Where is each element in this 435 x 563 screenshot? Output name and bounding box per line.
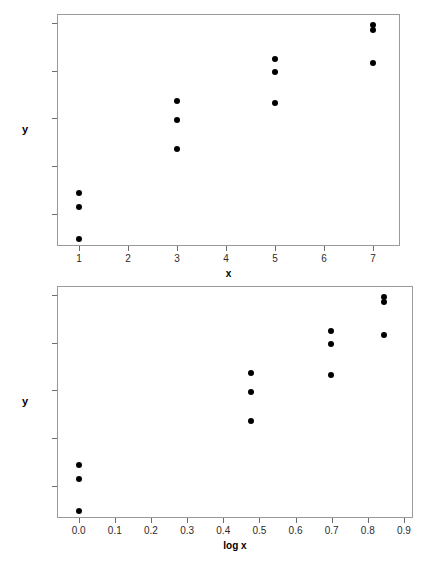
y-tick-mark: [52, 295, 57, 296]
x-tick-mark: [259, 518, 260, 523]
data-point: [370, 60, 376, 66]
x-tick-label: 1: [76, 253, 82, 264]
x-tick-mark: [151, 518, 152, 523]
x-tick-label: 0.9: [397, 525, 411, 536]
x-tick-label: 0.3: [180, 525, 194, 536]
x-tick-mark: [79, 246, 80, 251]
plot-area-bottom: [57, 286, 413, 518]
x-tick-label: 4: [223, 253, 229, 264]
x-tick-mark: [324, 246, 325, 251]
x-tick-label: 0.1: [108, 525, 122, 536]
x-tick-label: 0.8: [361, 525, 375, 536]
y-tick-mark: [52, 486, 57, 487]
x-tick-mark: [115, 518, 116, 523]
x-tick-mark: [187, 518, 188, 523]
y-tick-mark: [52, 438, 57, 439]
x-tick-mark: [404, 518, 405, 523]
x-tick-mark: [368, 518, 369, 523]
data-point: [76, 508, 82, 514]
y-tick-mark: [52, 23, 57, 24]
x-tick-label: 0.0: [72, 525, 86, 536]
y-tick-mark: [52, 214, 57, 215]
y-axis-title-bottom: y: [22, 395, 28, 407]
x-tick-mark: [275, 246, 276, 251]
x-tick-mark: [296, 518, 297, 523]
x-tick-label: 3: [174, 253, 180, 264]
x-tick-label: 7: [370, 253, 376, 264]
y-tick-mark: [52, 118, 57, 119]
data-point: [381, 332, 387, 338]
x-tick-label: 0.7: [325, 525, 339, 536]
x-axis-title-bottom: log x: [223, 540, 246, 551]
x-tick-label: 0.6: [289, 525, 303, 536]
scatter-chart-logx-vs-y: 25.022.520.017.515.0 0.00.10.20.30.40.50…: [0, 272, 435, 563]
x-tick-mark: [373, 246, 374, 251]
x-tick-mark: [332, 518, 333, 523]
x-tick-mark: [177, 246, 178, 251]
x-tick-label: 2: [125, 253, 131, 264]
scatter-chart-x-vs-y: 25.022.520.017.515.0 1234567 y x: [0, 0, 435, 275]
x-tick-label: 6: [321, 253, 327, 264]
data-point: [76, 476, 82, 482]
data-point: [76, 204, 82, 210]
x-tick-mark: [223, 518, 224, 523]
x-tick-mark: [79, 518, 80, 523]
y-tick-mark: [52, 390, 57, 391]
x-tick-label: 5: [272, 253, 278, 264]
x-tick-mark: [226, 246, 227, 251]
plot-area-top: [57, 14, 400, 246]
y-tick-mark: [52, 343, 57, 344]
x-tick-label: 0.4: [216, 525, 230, 536]
y-tick-mark: [52, 166, 57, 167]
y-tick-mark: [52, 71, 57, 72]
x-tick-label: 0.2: [144, 525, 158, 536]
x-tick-label: 0.5: [252, 525, 266, 536]
data-point: [76, 462, 82, 468]
x-tick-mark: [128, 246, 129, 251]
y-axis-title-top: y: [22, 123, 28, 135]
